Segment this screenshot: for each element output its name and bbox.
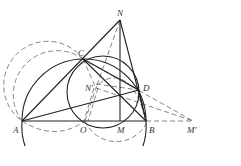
segment-a-d — [22, 90, 139, 121]
label-d: D — [142, 83, 150, 93]
label-m-prime: M' — [186, 125, 197, 135]
label-o: O — [80, 125, 87, 135]
bottom-dashed-arc — [22, 121, 85, 132]
label-c: C — [78, 48, 85, 58]
segment-d-b — [139, 90, 146, 121]
inner-solid-circle — [67, 56, 139, 128]
label-n-prime: N' — [84, 83, 94, 93]
label-m: M — [116, 125, 125, 135]
label-n: N — [116, 8, 124, 18]
label-a: A — [12, 125, 19, 135]
bottom-dashed-circle — [85, 121, 146, 142]
geometry-diagram: N C D N' A O M B M' — [0, 0, 241, 166]
segment-a-n — [22, 20, 120, 121]
label-b: B — [149, 125, 155, 135]
